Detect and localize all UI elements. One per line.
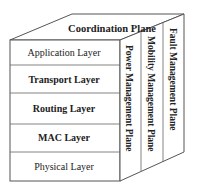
application-layer-label: Application Layer	[27, 47, 101, 58]
physical-layer-label: Physical Layer	[34, 161, 94, 172]
power-management-plane-label: Power Management Plane	[124, 45, 134, 151]
mobility-management-plane-label: Mobility Management Plane	[146, 36, 156, 152]
coordination-plane-label: Coordination Plane	[68, 23, 156, 34]
routing-layer-label: Routing Layer	[33, 103, 96, 114]
mac-layer-label: MAC Layer	[38, 132, 90, 143]
protocol-stack-cube: Coordination Plane Application Layer Tra…	[0, 0, 197, 189]
transport-layer-label: Transport Layer	[28, 74, 100, 85]
fault-management-plane-label: Fault Management Plane	[168, 28, 178, 130]
